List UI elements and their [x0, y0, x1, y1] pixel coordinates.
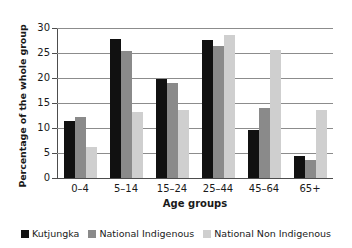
bar — [259, 108, 270, 178]
y-axis-tick-mark — [52, 103, 57, 104]
bar — [202, 40, 213, 179]
x-axis-tick-label: 5–14 — [103, 182, 149, 196]
bar-group — [241, 28, 287, 178]
y-axis-tick-label: 0 — [28, 173, 50, 183]
x-axis-tick-labels: 0–45–1415–2425–4445–6465+ — [57, 182, 333, 196]
y-axis-tick-mark — [52, 28, 57, 29]
legend-item: National Non Indigenous — [203, 229, 331, 239]
y-axis-tick-label: 5 — [28, 148, 50, 158]
y-axis-tick-label: 30 — [28, 23, 50, 33]
bar — [224, 35, 235, 178]
x-axis-tick-label: 65+ — [287, 182, 333, 196]
plot-area — [57, 28, 333, 178]
bar — [167, 83, 178, 178]
x-axis-tick-label: 45–64 — [241, 182, 287, 196]
bar — [156, 79, 167, 178]
bar-group — [287, 28, 333, 178]
x-axis-title: Age groups — [57, 198, 333, 210]
x-axis-line — [57, 178, 333, 179]
bar — [132, 112, 143, 178]
x-axis-tick-label: 0–4 — [57, 182, 103, 196]
bar-chart: Percentage of the whole group 0510152025… — [0, 0, 352, 248]
legend-swatch-icon — [21, 230, 29, 238]
legend-label: National Indigenous — [99, 229, 194, 239]
y-axis-tick-mark — [52, 153, 57, 154]
bar-group — [149, 28, 195, 178]
bar-group — [57, 28, 103, 178]
y-axis-tick-label: 20 — [28, 73, 50, 83]
x-axis-tick-label: 25–44 — [195, 182, 241, 196]
y-axis-tick-mark — [52, 53, 57, 54]
bar — [75, 117, 86, 178]
bar — [213, 46, 224, 179]
bar — [86, 147, 97, 178]
bar — [110, 39, 121, 178]
bar — [305, 160, 316, 178]
bars-layer — [57, 28, 333, 178]
legend-item: Kutjungka — [21, 229, 79, 239]
y-axis-tick-mark — [52, 178, 57, 179]
y-axis-tick-label: 15 — [28, 98, 50, 108]
bar — [178, 110, 189, 178]
legend-item: National Indigenous — [88, 229, 194, 239]
y-axis-tick-label: 10 — [28, 123, 50, 133]
y-axis-tick-label: 25 — [28, 48, 50, 58]
x-axis-tick-label: 15–24 — [149, 182, 195, 196]
bar-group — [195, 28, 241, 178]
chart-legend: KutjungkaNational IndigenousNational Non… — [0, 225, 352, 243]
y-axis-tick-mark — [52, 78, 57, 79]
bar — [270, 50, 281, 178]
bar — [121, 51, 132, 178]
legend-swatch-icon — [203, 230, 211, 238]
y-axis-tick-labels: 051015202530 — [28, 28, 50, 178]
y-axis-tick-mark — [52, 128, 57, 129]
legend-label: National Non Indigenous — [214, 229, 331, 239]
bar-group — [103, 28, 149, 178]
bar — [248, 130, 259, 179]
bar — [316, 110, 327, 178]
legend-label: Kutjungka — [32, 229, 79, 239]
bar — [64, 121, 75, 179]
legend-swatch-icon — [88, 230, 96, 238]
bar — [294, 156, 305, 179]
